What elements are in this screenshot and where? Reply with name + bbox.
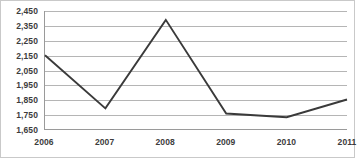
x-tick-label: 2009 (216, 137, 235, 147)
x-tick-label: 2010 (277, 137, 296, 147)
y-tick-label: 1,950 (16, 80, 38, 90)
x-axis: 200620072008200920102011 (44, 137, 347, 155)
y-axis: 1,6501,7501,8501,9502,0502,1502,2502,350… (1, 1, 41, 141)
series-layer (45, 11, 347, 129)
y-tick-label: 1,750 (16, 110, 38, 120)
y-tick-label: 2,050 (16, 66, 38, 76)
x-tick-label: 2007 (95, 137, 114, 147)
x-tick-label: 2008 (156, 137, 175, 147)
y-tick-label: 2,350 (16, 21, 38, 31)
x-tick-label: 2011 (338, 137, 357, 147)
series-line-0 (45, 20, 347, 117)
y-tick-label: 2,150 (16, 51, 38, 61)
line-chart: 1,6501,7501,8501,9502,0502,1502,2502,350… (0, 0, 355, 158)
y-tick-label: 1,650 (16, 125, 38, 135)
y-tick-label: 2,250 (16, 36, 38, 46)
x-tick-label: 2006 (34, 137, 53, 147)
plot-area (44, 11, 347, 130)
y-tick-label: 1,850 (16, 95, 38, 105)
y-tick-label: 2,450 (16, 6, 38, 16)
